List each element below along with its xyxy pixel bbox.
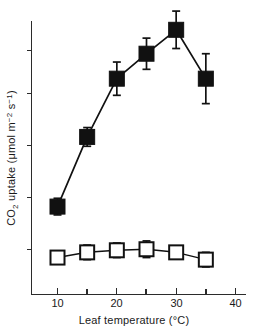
data-point-open-squares-35 <box>199 253 213 267</box>
data-point-filled-squares-30 <box>169 22 184 37</box>
data-point-filled-squares-20 <box>109 71 124 86</box>
series-open-squares <box>51 241 213 267</box>
x-tick-label-30: 30 <box>170 297 182 309</box>
data-point-filled-squares-15 <box>80 129 95 144</box>
series-line-filled-squares <box>58 30 206 207</box>
figure-container: 10 20 30 40 Leaf temperature (°C) CO2 up… <box>0 0 254 329</box>
x-axis-tick-labels: 10 20 30 40 <box>51 297 241 309</box>
y-axis-ticks <box>27 51 32 250</box>
data-point-open-squares-10 <box>51 251 65 265</box>
series-filled-squares <box>50 11 213 215</box>
x-tick-label-40: 40 <box>229 297 241 309</box>
data-point-open-squares-20 <box>110 243 124 257</box>
data-point-open-squares-25 <box>140 242 154 256</box>
y-axis-title: CO2 uptake (μmol m−2 s−1) <box>5 90 20 226</box>
data-point-filled-squares-10 <box>50 199 65 214</box>
x-tick-label-20: 20 <box>110 297 122 309</box>
x-tick-label-10: 10 <box>51 297 63 309</box>
data-series-layer <box>50 11 213 267</box>
data-point-filled-squares-35 <box>198 71 213 86</box>
data-point-open-squares-15 <box>80 245 94 259</box>
data-point-filled-squares-25 <box>139 46 154 61</box>
co2-uptake-vs-leaf-temperature-chart: 10 20 30 40 Leaf temperature (°C) CO2 up… <box>0 0 254 329</box>
x-axis-title: Leaf temperature (°C) <box>79 314 190 326</box>
x-axis-ticks <box>58 288 236 295</box>
data-point-open-squares-30 <box>169 245 183 259</box>
